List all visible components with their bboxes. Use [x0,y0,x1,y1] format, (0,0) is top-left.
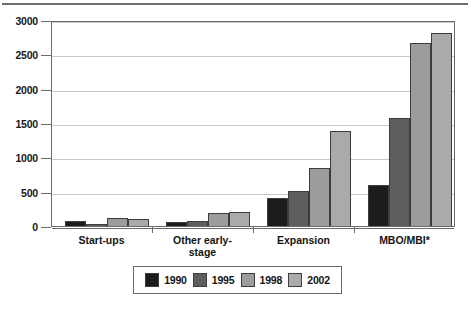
legend-swatch-1990 [145,273,159,287]
bar-1998-1 [107,218,128,226]
chart-legend: 1990199519982002 [133,266,342,294]
x-group-label-3: Expansion [253,235,354,247]
y-tick-label-0: 0 [32,221,38,233]
y-tick-mark-1500 [41,124,51,125]
y-axis: 050010001500200025003000 [0,0,51,248]
legend-label-1995: 1995 [212,274,235,286]
y-tick-label-3000: 3000 [15,15,38,27]
y-tick-mark-2000 [41,90,51,91]
bar-series-container [52,22,454,226]
legend-entry-1995[interactable]: 1995 [193,273,235,287]
bar-1990-3 [267,198,288,226]
bar-1990-1 [65,221,86,226]
y-tick-label-1000: 1000 [15,152,38,164]
legend-entry-1998[interactable]: 1998 [241,273,283,287]
legend-label-2002: 2002 [307,274,330,286]
bar-1998-3 [309,168,330,226]
bar-1990-2 [166,222,187,226]
y-tick-label-2000: 2000 [15,84,38,96]
y-tick-label-2500: 2500 [15,49,38,61]
y-tick-mark-1000 [41,158,51,159]
y-tick-label-1500: 1500 [15,118,38,130]
bar-1998-4 [410,43,431,226]
bar-1995-2 [187,221,208,226]
bar-2002-1 [128,219,149,226]
legend-swatch-1995 [193,273,207,287]
legend-label-1990: 1990 [164,274,187,286]
x-axis-divider-2 [253,227,254,233]
bar-1995-4 [389,118,410,226]
y-tick-mark-500 [41,193,51,194]
bar-1995-1 [86,224,107,226]
legend-entry-1990[interactable]: 1990 [145,273,187,287]
bar-2002-4 [431,33,452,226]
bar-2002-3 [330,131,351,226]
bar-2002-2 [229,212,250,226]
x-axis-divider-3 [354,227,355,233]
x-axis: Start-upsOther early- stageExpansionMBO/… [51,227,455,261]
legend-entry-2002[interactable]: 2002 [288,273,330,287]
y-tick-mark-0 [41,227,51,228]
bar-chart-figure: £ million 050010001500200025003000 Start… [0,0,471,310]
x-axis-divider-1 [152,227,153,233]
bar-1990-4 [368,185,389,226]
legend-label-1998: 1998 [260,274,283,286]
y-tick-mark-3000 [41,21,51,22]
x-group-label-1: Start-ups [51,235,152,247]
legend-swatch-1998 [241,273,255,287]
legend-swatch-2002 [288,273,302,287]
plot-area [51,21,455,227]
y-tick-mark-2500 [41,55,51,56]
bar-1995-3 [288,191,309,226]
x-group-label-4: MBO/MBI* [354,235,455,247]
x-group-label-2: Other early- stage [152,235,253,258]
bar-1998-2 [208,213,229,226]
y-tick-label-500: 500 [21,187,38,199]
